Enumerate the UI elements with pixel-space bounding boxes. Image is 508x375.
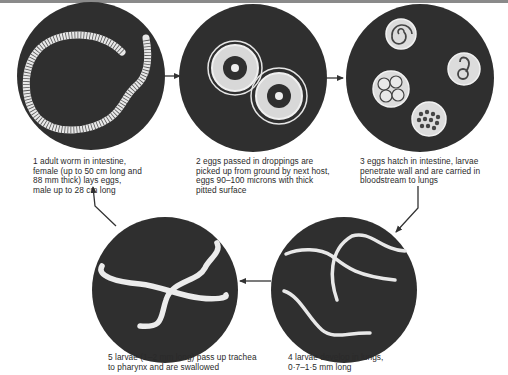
stage-1-adult-worm-icon (17, 2, 165, 150)
stage-5-trachea-larvae-icon (92, 217, 238, 363)
stage-3-hatching-eggs-icon (346, 4, 494, 152)
stage-4-lung-larvae-icon (271, 217, 417, 363)
stage-2-caption: 2 eggs passed in droppings are picked up… (196, 157, 346, 195)
stage-2-eggs-icon (179, 4, 327, 152)
stage-5-caption: 5 larvae (1–2 mm long) pass up trachea t… (108, 353, 288, 372)
arrow-3-to-4 (396, 186, 418, 232)
stage-4-caption: 4 larvae develop in lungs, 0·7–1·5 mm lo… (288, 353, 438, 372)
stage-1-caption: 1 adult worm in intestine, female (up to… (33, 157, 173, 195)
stage-3-caption: 3 eggs hatch in intestine, larvae penetr… (360, 157, 508, 186)
